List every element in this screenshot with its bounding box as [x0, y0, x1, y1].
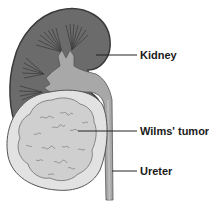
wilms-tumor-label: Wilms' tumor	[140, 125, 209, 137]
kidney-illustration	[0, 0, 209, 206]
ureter-label: Ureter	[140, 165, 172, 177]
kidney-label: Kidney	[140, 49, 177, 61]
